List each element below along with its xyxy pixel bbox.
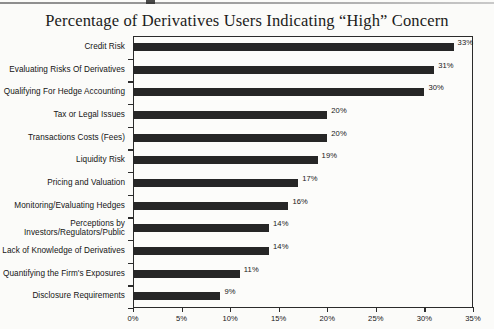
- x-axis-tick: [327, 307, 328, 312]
- x-axis-tick: [279, 307, 280, 312]
- bar-value-label: 14%: [273, 219, 289, 228]
- y-axis-tick: [128, 217, 133, 218]
- category-label: Lack of Knowledge of Derivatives: [0, 246, 125, 256]
- bar: [133, 292, 220, 300]
- y-axis-tick: [128, 59, 133, 60]
- bar-value-label: 20%: [331, 106, 347, 115]
- bar-row: 14%: [133, 217, 473, 240]
- category-label: Disclosure Requirements: [0, 291, 125, 301]
- y-axis-tick: [128, 263, 133, 264]
- category-label: Evaluating Risks Of Derivatives: [0, 65, 125, 75]
- x-axis-tick-label: 0%: [127, 314, 138, 323]
- bar-value-label: 9%: [224, 287, 235, 296]
- x-axis-tick-label: 35%: [465, 314, 481, 323]
- bar-row: 33%: [133, 36, 473, 59]
- chart-page: Percentage of Derivatives Users Indicati…: [0, 0, 494, 329]
- bar-row: 20%: [133, 127, 473, 150]
- y-axis-tick: [128, 285, 133, 286]
- category-label-line: Tax or Legal Issues: [0, 110, 125, 120]
- x-axis-tick-label: 30%: [417, 314, 433, 323]
- bar-row: 14%: [133, 240, 473, 263]
- bar: [133, 88, 424, 96]
- x-axis-line: [133, 307, 474, 308]
- category-label: Transactions Costs (Fees): [0, 133, 125, 143]
- y-axis-tick: [128, 81, 133, 82]
- bar-row: 30%: [133, 81, 473, 104]
- bar-row: 17%: [133, 172, 473, 195]
- x-axis-tick-label: 10%: [222, 314, 238, 323]
- category-label-line: Pricing and Valuation: [0, 178, 125, 188]
- page-top-rule: [0, 2, 494, 4]
- category-label-line: Investors/Regulators/Public: [0, 228, 125, 238]
- bar-value-label: 33%: [458, 38, 474, 47]
- x-axis-tick-label: 25%: [368, 314, 384, 323]
- x-axis-tick: [133, 307, 134, 312]
- category-label: Tax or Legal Issues: [0, 110, 125, 120]
- bars-layer: 33%31%30%20%20%19%17%16%14%14%11%9%: [133, 36, 473, 308]
- bar-row: 11%: [133, 263, 473, 286]
- category-label-line: Qualifying For Hedge Accounting: [0, 87, 125, 97]
- bar: [133, 179, 298, 187]
- bar: [133, 270, 240, 278]
- category-label-line: Monitoring/Evaluating Hedges: [0, 201, 125, 211]
- category-label-line: Lack of Knowledge of Derivatives: [0, 246, 125, 256]
- x-axis-tick: [230, 307, 231, 312]
- bar-value-label: 14%: [273, 242, 289, 251]
- category-label-line: Credit Risk: [0, 42, 125, 52]
- bar-value-label: 31%: [438, 61, 454, 70]
- x-axis-tick: [182, 307, 183, 312]
- category-label-line: Disclosure Requirements: [0, 291, 125, 301]
- bar-row: 9%: [133, 285, 473, 308]
- bar-value-label: 30%: [428, 83, 444, 92]
- y-axis-tick: [128, 127, 133, 128]
- bar: [133, 224, 269, 232]
- y-axis-tick: [128, 149, 133, 150]
- bar: [133, 66, 434, 74]
- bar: [133, 156, 318, 164]
- bar: [133, 43, 454, 51]
- bar-value-label: 17%: [302, 174, 318, 183]
- category-label: Perceptions byInvestors/Regulators/Publi…: [0, 219, 125, 238]
- x-axis-tick-label: 15%: [271, 314, 287, 323]
- bar-value-label: 11%: [244, 265, 259, 274]
- y-axis-tick: [128, 104, 133, 105]
- bar: [133, 202, 288, 210]
- x-axis-tick-label: 5%: [176, 314, 187, 323]
- category-label: Quantifying the Firm's Exposures: [0, 269, 125, 279]
- chart-title: Percentage of Derivatives Users Indicati…: [0, 11, 494, 31]
- scan-smudge: [146, 0, 155, 4]
- bar-value-label: 19%: [322, 151, 338, 160]
- bar: [133, 111, 327, 119]
- bar-row: 20%: [133, 104, 473, 127]
- x-axis-tick: [473, 307, 474, 312]
- bar: [133, 247, 269, 255]
- category-label-line: Liquidity Risk: [0, 155, 125, 165]
- category-label-line: Perceptions by: [0, 219, 125, 229]
- bar-row: 19%: [133, 149, 473, 172]
- x-axis-tick: [424, 307, 425, 312]
- category-axis-labels: Credit RiskEvaluating Risks Of Derivativ…: [0, 36, 129, 308]
- y-axis-tick: [128, 172, 133, 173]
- x-axis-tick: [376, 307, 377, 312]
- category-label: Qualifying For Hedge Accounting: [0, 87, 125, 97]
- category-label: Credit Risk: [0, 42, 125, 52]
- category-label: Pricing and Valuation: [0, 178, 125, 188]
- bar: [133, 134, 327, 142]
- x-axis-tick-label: 20%: [320, 314, 336, 323]
- category-label-line: Quantifying the Firm's Exposures: [0, 269, 125, 279]
- bar-value-label: 16%: [292, 197, 308, 206]
- bar-value-label: 20%: [331, 129, 347, 138]
- category-label-line: Evaluating Risks Of Derivatives: [0, 65, 125, 75]
- category-label: Liquidity Risk: [0, 155, 125, 165]
- bar-row: 16%: [133, 195, 473, 218]
- y-axis-tick: [128, 240, 133, 241]
- bar-row: 31%: [133, 59, 473, 82]
- category-label-line: Transactions Costs (Fees): [0, 133, 125, 143]
- category-label: Monitoring/Evaluating Hedges: [0, 201, 125, 211]
- y-axis-tick: [128, 195, 133, 196]
